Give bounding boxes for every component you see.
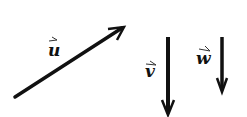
- vector-w-label: w: [196, 46, 212, 68]
- vector-diagram: u v w: [0, 0, 247, 117]
- vector-u: [15, 27, 124, 97]
- vector-v-label: v: [145, 61, 156, 81]
- vector-w: [217, 37, 227, 92]
- vector-u-label: u: [48, 37, 60, 60]
- label-w: w: [196, 48, 212, 68]
- label-u: u: [48, 40, 60, 60]
- vector-v: [162, 37, 174, 115]
- label-v: v: [145, 61, 156, 81]
